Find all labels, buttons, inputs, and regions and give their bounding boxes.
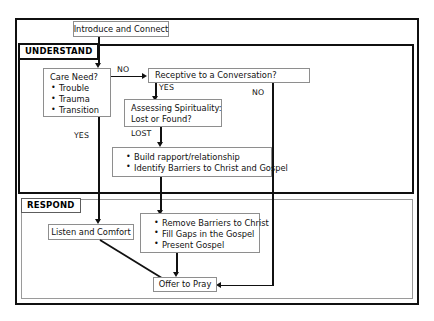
edge-listen-to-pray xyxy=(0,0,434,321)
list-item: Present Gospel xyxy=(162,240,253,251)
node-offer-to-pray-label: Offer to Pray xyxy=(159,279,212,290)
flowchart-canvas: Introduce and Connect UNDERSTAND RESPOND… xyxy=(0,0,434,321)
node-remove-barriers[interactable]: Remove Barriers to Christ Fill Gaps in t… xyxy=(140,213,260,253)
node-remove-barriers-list: Remove Barriers to Christ Fill Gaps in t… xyxy=(153,218,253,251)
list-item: Remove Barriers to Christ xyxy=(162,218,253,229)
edge-remove-to-pray xyxy=(176,253,178,274)
node-offer-to-pray[interactable]: Offer to Pray xyxy=(153,277,217,292)
list-item: Fill Gaps in the Gospel xyxy=(162,229,253,240)
